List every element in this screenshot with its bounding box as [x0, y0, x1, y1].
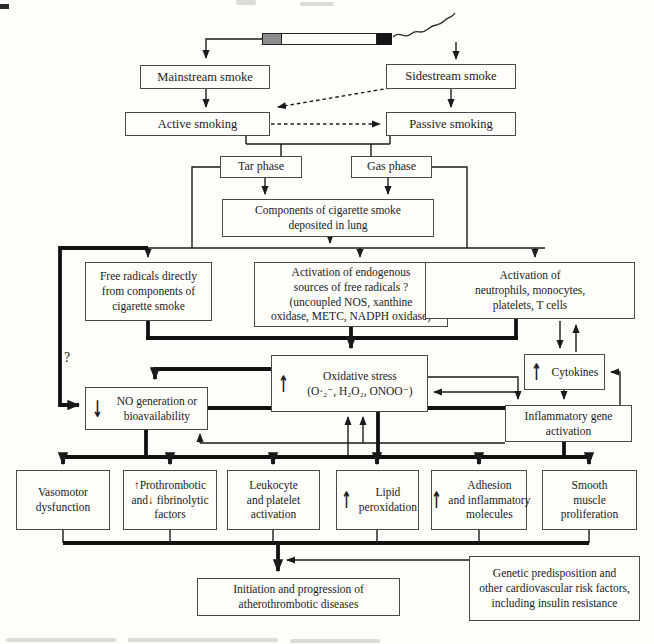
node-genetic-predisposition: Genetic predisposition and other cardiov…: [469, 556, 640, 621]
node-initiation-atherothrombotic: Initiation and progression of atherothro…: [197, 578, 400, 616]
cigarette-filter: [262, 33, 282, 45]
up-arrow-icon: ↑: [278, 372, 288, 395]
node-active-smoking: Active smoking: [125, 112, 270, 136]
node-vasomotor-dysfunction: Vasomotor dysfunction: [16, 470, 110, 530]
node-smooth-muscle: Smooth muscle proliferation: [542, 470, 637, 530]
up-arrow-icon: ↑: [431, 489, 441, 512]
up-arrow-icon: ↑: [531, 361, 541, 384]
node-lipid-peroxidation: ↑ Lipid peroxidation: [336, 470, 419, 530]
node-sidestream-smoke: Sidestream smoke: [386, 64, 516, 89]
node-components-deposited: Components of cigarette smoke deposited …: [222, 199, 434, 237]
node-leukocyte-platelet: Leukocyte and platelet activation: [227, 470, 320, 530]
up-arrow-icon: ↑: [341, 489, 351, 512]
arrow-cigarette-to-mainstream: [206, 39, 262, 58]
feeds-to-collect-line: [63, 530, 589, 543]
node-passive-smoking: Passive smoking: [386, 112, 516, 136]
smoke-squiggle: [393, 13, 455, 37]
node-prothrombotic-fibrinolytic: ↑Prothrombotic and↓ fibrinolytic factors: [123, 470, 217, 530]
node-inflammatory-gene: Inflammatory gene activation: [505, 405, 632, 442]
diagram-page: ? Mainstream smoke Sidestream smoke Acti…: [0, 0, 654, 644]
route-tar-left: [192, 167, 220, 248]
thick-arrow-oxidative-to-no: [155, 369, 271, 379]
question-mark-label: ?: [64, 350, 70, 366]
node-adhesion-molecules: ↑ Adhesion and inflammatory molecules: [431, 470, 527, 530]
cigarette-lit-tip: [377, 33, 392, 45]
node-no-generation: ↓ NO generation or bioavailability: [85, 387, 208, 430]
node-tar-phase: Tar phase: [220, 156, 302, 178]
down-arrow-icon: ↓: [92, 397, 102, 420]
bracket-smoking-to-phases: [246, 136, 390, 156]
node-oxidative-stress: ↑ Oxidative stress (O·₂⁻, H₂O₂, ONOO⁻): [271, 355, 428, 412]
node-gas-phase: Gas phase: [351, 156, 432, 178]
node-cytokines: ↑ Cytokines: [524, 354, 605, 390]
node-mainstream-smoke: Mainstream smoke: [140, 65, 270, 89]
node-free-radicals: Free radicals directly from components o…: [85, 262, 212, 321]
route-gas-right: [432, 167, 467, 248]
cigarette-body: [281, 33, 377, 45]
node-endogenous-sources: Activation of endogenous sources of free…: [254, 262, 448, 327]
arrow-inflammatory-to-cytokines: [611, 372, 620, 405]
dashed-arrow-sidestream-to-active: [278, 88, 390, 107]
node-neutrophil-activation: Activation of neutrophils, monocytes, pl…: [425, 262, 635, 319]
arrow-oxidative-to-inflammatory: [428, 377, 518, 399]
